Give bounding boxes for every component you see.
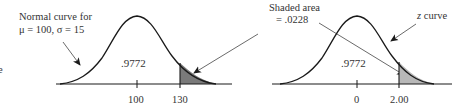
normal-curve-label-line2: μ = 100, σ = 15 [19, 25, 84, 36]
right-tick-label-2: 2.00 [390, 95, 408, 106]
normal-to-z-diagram: e Normal curve for μ = 100, σ = 15 .9772… [0, 0, 465, 108]
shaded-area-arrow-left [194, 34, 258, 73]
left-tick-label-100: 100 [128, 95, 144, 106]
edge-text-fragment: e [0, 65, 3, 76]
shaded-area-callout-line2: = .0228 [276, 15, 308, 26]
right-area-label: .9772 [341, 58, 366, 69]
normal-curve-arrow [63, 42, 80, 65]
z-curve-arrow [391, 24, 416, 41]
right-z-curve-panel [272, 16, 452, 88]
right-shaded-tail [399, 62, 434, 84]
normal-curve-label-line1: Normal curve for [19, 12, 92, 23]
left-area-label: .9772 [121, 58, 146, 69]
shaded-area-callout-line1: Shaded area [269, 3, 320, 14]
right-tick-label-0: 0 [354, 95, 359, 106]
z-curve-label: z curve [417, 11, 447, 22]
left-shaded-tail [180, 63, 216, 84]
left-tick-label-130: 130 [172, 95, 188, 106]
z-curve-word: curve [421, 10, 447, 21]
